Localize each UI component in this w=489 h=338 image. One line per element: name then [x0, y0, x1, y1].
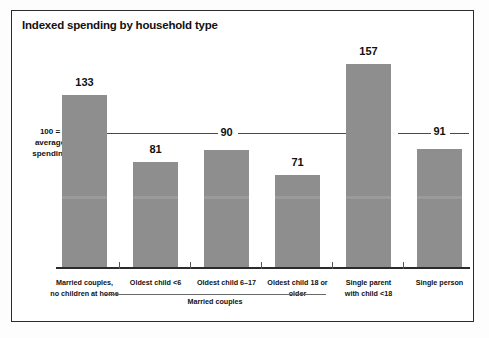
x-axis-tick-label: Single parent with child <18 — [333, 277, 404, 299]
axis-tick — [261, 262, 262, 269]
chart-figure: Indexed spending by household type 100 =… — [0, 0, 489, 338]
x-axis-tick-label: Single person — [404, 277, 475, 288]
table-row[interactable] — [346, 64, 391, 267]
reference-line-segment — [238, 133, 352, 134]
bar-value-label: 71 — [275, 156, 320, 168]
bar-value-label: 133 — [62, 76, 107, 88]
reference-line-segment — [101, 133, 218, 134]
table-row[interactable] — [417, 149, 462, 267]
group-bracket-label: Married couples — [104, 297, 326, 306]
x-axis-tick-label: Oldest child <6 — [120, 277, 191, 288]
bar-shade-band — [275, 196, 320, 199]
table-row[interactable] — [62, 95, 107, 267]
table-row[interactable] — [204, 150, 249, 267]
axis-tick — [332, 262, 333, 269]
bar-shade-band — [417, 196, 462, 199]
bar-shade-band — [204, 196, 249, 199]
bar-value-label: 91 — [417, 125, 462, 137]
bar-shade-band — [346, 196, 391, 199]
x-axis-tick-label: Oldest child 18 or older — [262, 277, 333, 299]
bar-shade-band — [62, 196, 107, 199]
bar-value-label: 81 — [133, 143, 178, 155]
bar-value-label: 90 — [204, 126, 249, 138]
axis-tick — [403, 262, 404, 269]
plot-area: 100 = average spending 133 81 90 — [0, 0, 489, 338]
x-axis-tick-label: Oldest child 6–17 — [191, 277, 262, 288]
axis-tick — [190, 262, 191, 269]
bar-shade-band — [133, 196, 178, 199]
group-bracket-line — [104, 294, 326, 295]
axis-tick — [119, 262, 120, 269]
bar-value-label: 157 — [346, 45, 391, 57]
table-row[interactable] — [275, 175, 320, 267]
x-axis-tick-label: Married couples, no children at home — [44, 277, 125, 299]
table-row[interactable] — [133, 162, 178, 267]
